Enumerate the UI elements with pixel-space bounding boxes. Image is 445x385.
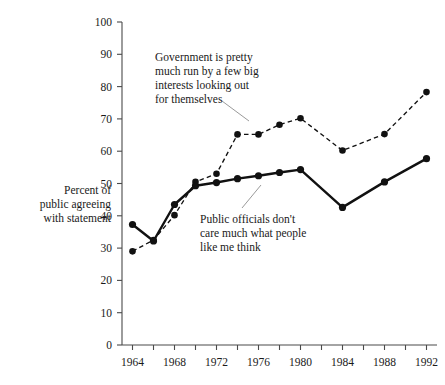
chart-container: 0102030405060708090100 19641968197219761… [0,0,445,385]
data-point [297,166,304,173]
x-tick-label: 1968 [163,356,186,368]
data-point [255,131,262,138]
x-axis-tick-labels: 19641968197219761980198419881992 [121,356,438,368]
x-tick-label: 1972 [205,356,228,368]
y-tick-label: 90 [101,48,113,60]
y-tick-label: 80 [101,81,113,93]
data-point [213,171,220,178]
data-point [423,89,430,96]
data-point [276,169,283,176]
annotation-public-officials-line-3: like me think [200,241,261,253]
y-axis-title-line-3: with statement [44,212,112,224]
data-point [213,179,220,186]
leader-line-big-interests [222,101,249,121]
annotation-public-officials-line-1: Public officials don't [200,213,296,225]
annotation-public-officials: Public officials don't care much what pe… [200,213,306,253]
line-chart: 0102030405060708090100 19641968197219761… [0,0,445,385]
annotation-big-interests-line-1: Government is pretty [155,51,253,64]
x-tick-label: 1988 [373,356,396,368]
data-point [192,182,199,189]
y-tick-label: 20 [101,274,113,286]
annotation-big-interests-line-3: interests looking out [155,79,250,92]
data-point [423,155,430,162]
x-tick-label: 1984 [331,356,354,368]
data-point [381,178,388,185]
y-tick-label: 60 [101,145,113,157]
y-axis-title-line-2: public agreeing [40,198,111,211]
x-tick-label: 1964 [121,356,144,368]
data-point [276,121,283,128]
data-point [150,237,157,244]
data-point [297,115,304,122]
y-axis-title: Percent of public agreeing with statemen… [40,184,112,224]
y-axis-ticks [117,22,122,345]
y-tick-label: 70 [101,113,113,125]
y-tick-label: 30 [101,242,113,254]
annotation-big-interests-line-2: much run by a few big [155,65,259,78]
data-point [129,248,136,255]
x-tick-label: 1976 [247,356,270,368]
y-tick-label: 100 [95,16,113,28]
data-point [339,204,346,211]
data-point [234,131,241,138]
y-tick-label: 0 [106,339,112,351]
data-point [255,172,262,179]
x-axis-ticks [133,345,427,350]
annotation-public-officials-line-2: care much what people [200,227,306,240]
data-point [339,147,346,154]
x-tick-label: 1980 [289,356,312,368]
leader-line-public-officials [242,185,261,208]
data-point [234,175,241,182]
x-tick-label: 1992 [415,356,438,368]
y-tick-label: 10 [101,307,113,319]
data-point [381,131,388,138]
annotation-big-interests-line-4: for themselves [155,93,223,105]
y-axis-title-line-1: Percent of [64,184,111,196]
data-point [129,221,136,228]
data-point [171,212,178,219]
annotation-big-interests: Government is pretty much run by a few b… [155,51,259,105]
data-point [171,201,178,208]
